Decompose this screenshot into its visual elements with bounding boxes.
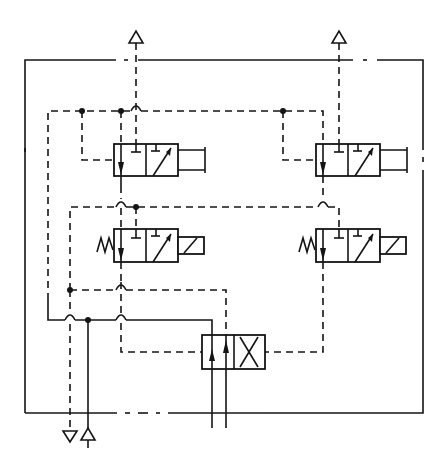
spring-icon — [299, 238, 315, 252]
valve-upper-left — [114, 144, 205, 186]
exhaust-top-right — [332, 31, 346, 144]
exhaust-triangle-icon — [63, 431, 77, 442]
supply-bottom — [81, 428, 95, 440]
push-button-icon — [178, 147, 205, 173]
exhaust-triangle-icon — [129, 31, 143, 43]
exhaust-top-left — [129, 31, 143, 144]
valve-main — [202, 335, 265, 428]
pneumatic-schematic — [0, 0, 446, 474]
valve-lower-right — [265, 229, 406, 352]
valve-upper-right — [316, 144, 407, 200]
spring-icon — [97, 238, 113, 252]
schematic-canvas — [0, 0, 446, 474]
supply-triangle-icon — [81, 428, 95, 440]
pilot-line-top — [48, 106, 323, 300]
push-button-icon — [380, 147, 407, 173]
exhaust-triangle-icon — [332, 31, 346, 43]
valve-lower-left — [97, 229, 204, 282]
exhaust-bottom — [63, 431, 77, 442]
supply-line — [48, 300, 212, 448]
